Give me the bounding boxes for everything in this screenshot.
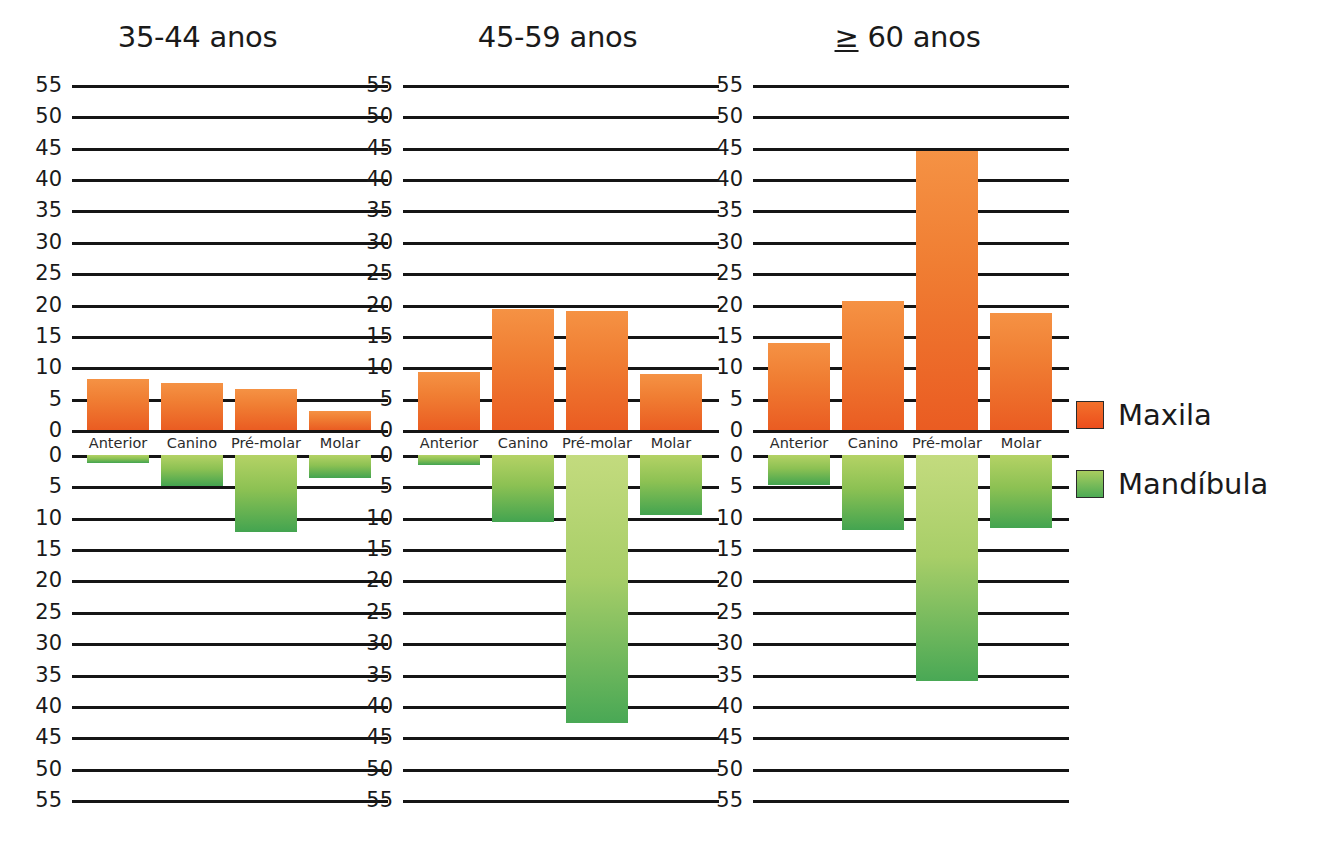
gridline <box>72 612 388 615</box>
gridline <box>753 430 1069 433</box>
y-tick-label: 0 <box>14 418 62 442</box>
gridline <box>72 430 388 433</box>
y-tick-label: 25 <box>695 261 743 285</box>
y-tick-label: 50 <box>345 104 393 128</box>
gridline <box>403 116 719 119</box>
bar-maxila <box>418 372 480 430</box>
gridline <box>753 273 1069 276</box>
gridline <box>403 148 719 151</box>
bar-maxila <box>235 389 297 430</box>
gridline <box>403 800 719 803</box>
y-tick-label: 35 <box>345 663 393 687</box>
y-tick-label: 5 <box>345 387 393 411</box>
gridline <box>753 580 1069 583</box>
y-tick-label: 30 <box>695 230 743 254</box>
y-tick-label: 5 <box>345 474 393 498</box>
y-tick-label: 10 <box>14 506 62 530</box>
gridline <box>72 769 388 772</box>
gridline <box>403 367 719 370</box>
y-tick-label: 55 <box>695 73 743 97</box>
y-tick-label: 10 <box>695 355 743 379</box>
category-label: Pré-molar <box>231 435 301 451</box>
gridline <box>403 643 719 646</box>
gridline <box>72 800 388 803</box>
y-tick-label: 50 <box>345 757 393 781</box>
gridline <box>72 643 388 646</box>
y-tick-label: 30 <box>14 631 62 655</box>
y-tick-label: 35 <box>14 663 62 687</box>
gridline <box>403 675 719 678</box>
y-tick-label: 0 <box>14 443 62 467</box>
y-tick-label: 35 <box>14 198 62 222</box>
gridline <box>403 430 719 433</box>
category-label: Pré-molar <box>562 435 632 451</box>
y-tick-label: 25 <box>345 600 393 624</box>
legend-label: Mandíbula <box>1118 467 1268 501</box>
y-tick-label: 50 <box>695 104 743 128</box>
y-tick-label: 15 <box>695 537 743 561</box>
y-tick-label: 35 <box>695 663 743 687</box>
bar-maxila <box>990 313 1052 430</box>
gridline <box>72 580 388 583</box>
y-tick-label: 0 <box>345 443 393 467</box>
y-tick-label: 10 <box>14 355 62 379</box>
y-tick-label: 30 <box>345 230 393 254</box>
gridline <box>753 305 1069 308</box>
gridline <box>72 737 388 740</box>
y-tick-label: 40 <box>345 167 393 191</box>
gridline <box>403 580 719 583</box>
gridline <box>403 179 719 182</box>
y-tick-label: 35 <box>695 198 743 222</box>
y-tick-label: 10 <box>345 355 393 379</box>
y-tick-label: 50 <box>14 757 62 781</box>
y-tick-label: 30 <box>345 631 393 655</box>
y-tick-label: 25 <box>345 261 393 285</box>
y-tick-label: 0 <box>695 418 743 442</box>
bar-mandibula <box>640 455 702 515</box>
y-tick-label: 40 <box>345 694 393 718</box>
gridline <box>403 210 719 213</box>
y-tick-label: 15 <box>14 537 62 561</box>
y-tick-label: 15 <box>345 324 393 348</box>
gridline <box>72 148 388 151</box>
legend-item-maxila[interactable]: Maxila <box>1076 398 1268 432</box>
gridline <box>403 769 719 772</box>
gridline <box>753 85 1069 88</box>
bar-maxila <box>768 343 830 430</box>
y-tick-label: 40 <box>695 694 743 718</box>
gridline <box>403 273 719 276</box>
gridline <box>403 612 719 615</box>
gridline <box>753 116 1069 119</box>
y-tick-label: 5 <box>14 387 62 411</box>
y-tick-label: 20 <box>695 293 743 317</box>
y-tick-label: 45 <box>345 136 393 160</box>
y-tick-label: 15 <box>695 324 743 348</box>
gridline <box>753 210 1069 213</box>
gridline <box>403 549 719 552</box>
category-label: Pré-molar <box>912 435 982 451</box>
y-tick-label: 45 <box>345 725 393 749</box>
category-label: Anterior <box>770 435 829 451</box>
gridline <box>753 612 1069 615</box>
gridline <box>72 367 388 370</box>
gridline <box>753 549 1069 552</box>
gridline <box>72 336 388 339</box>
y-tick-label: 15 <box>14 324 62 348</box>
legend-label: Maxila <box>1118 398 1212 432</box>
category-label: Molar <box>1001 435 1041 451</box>
gridline <box>72 549 388 552</box>
gridline <box>753 800 1069 803</box>
y-tick-label: 55 <box>345 73 393 97</box>
bar-mandibula <box>842 455 904 530</box>
legend-item-mandibula[interactable]: Mandíbula <box>1076 467 1268 501</box>
gridline <box>753 179 1069 182</box>
y-tick-label: 40 <box>695 167 743 191</box>
y-tick-label: 55 <box>14 788 62 812</box>
y-tick-label: 30 <box>695 631 743 655</box>
y-tick-label: 55 <box>695 788 743 812</box>
gridline <box>72 518 388 521</box>
y-tick-label: 40 <box>14 167 62 191</box>
bar-maxila <box>566 311 628 430</box>
category-label: Canino <box>848 435 898 451</box>
bar-maxila <box>640 374 702 430</box>
